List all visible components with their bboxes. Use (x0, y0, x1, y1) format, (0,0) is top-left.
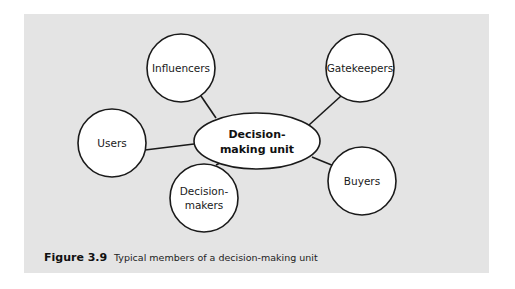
node-label: Influencers (152, 62, 210, 74)
hub-node: Decision- making unit (194, 113, 320, 169)
node-users: Users (78, 109, 146, 177)
figure-number: Figure 3.9 (44, 251, 107, 264)
node-label-line1: Decision- (180, 185, 229, 197)
node-decision-makers: Decision- makers (170, 164, 238, 232)
connector-buyers (312, 157, 334, 166)
node-label-line2: makers (185, 199, 224, 211)
node-influencers: Influencers (147, 34, 215, 102)
node-label: Buyers (344, 175, 380, 187)
hub-label-line2: making unit (220, 143, 294, 156)
node-label: Gatekeepers (327, 62, 394, 74)
connector-gatekeepers (309, 96, 341, 125)
connector-users (145, 144, 194, 150)
node-gatekeepers: Gatekeepers (326, 34, 394, 102)
figure-caption-text: Typical members of a decision-making uni… (114, 252, 318, 263)
node-buyers: Buyers (328, 147, 396, 215)
decision-making-unit-diagram: Decision- making unit Influencers Gateke… (0, 0, 515, 289)
hub-ellipse (194, 113, 320, 169)
node-circle (170, 164, 238, 232)
hub-label-line1: Decision- (228, 128, 285, 141)
connector-influencers (201, 96, 216, 118)
node-label: Users (97, 137, 126, 149)
figure-caption: Figure 3.9 Typical members of a decision… (44, 251, 318, 264)
